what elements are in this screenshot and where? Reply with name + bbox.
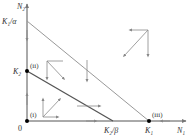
equilibrium-origin xyxy=(25,119,29,123)
arrow-cluster-middle-left xyxy=(47,61,64,79)
equilibrium-label-iii: (iii) xyxy=(152,111,163,119)
tick-label-k1-over-alpha: K₁/α xyxy=(1,17,17,26)
equilibria xyxy=(25,69,151,123)
tick-label-k2-over-beta: K₂/β xyxy=(103,126,118,135)
n2-nullcline xyxy=(27,71,113,121)
vector-field xyxy=(43,30,148,117)
equilibrium-k2 xyxy=(25,69,29,73)
equilibrium-k1 xyxy=(147,119,151,123)
arrow-cluster-lower-left xyxy=(43,99,60,117)
arrow-cluster-upper-right xyxy=(124,30,148,56)
equilibrium-label-ii: (ii) xyxy=(30,62,39,70)
origin-label: 0 xyxy=(18,124,22,133)
tick-label-k2: K₂ xyxy=(12,67,21,76)
axis-flow-arrows xyxy=(27,30,170,121)
axes xyxy=(27,4,186,121)
y-axis-label: N₂ xyxy=(16,2,25,11)
tick-label-k1: K₁ xyxy=(144,126,153,135)
phase-plane-diagram: N₂ N₁ 0 K₁/α K₂ K₂/β K₁ (i) (ii) (iii) xyxy=(0,0,189,138)
x-axis-label: N₁ xyxy=(176,126,185,135)
equilibrium-label-i: (i) xyxy=(30,111,37,119)
